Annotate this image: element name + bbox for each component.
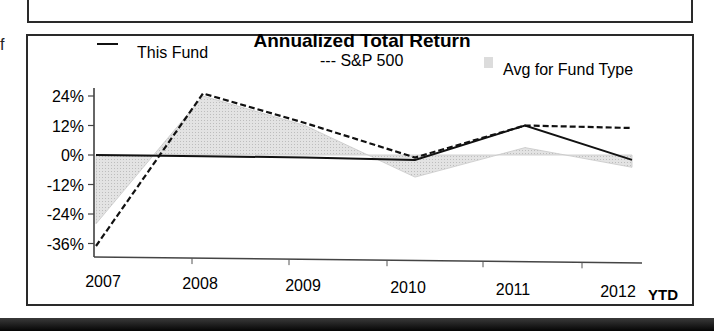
y-tick-label: 0% [61, 147, 84, 164]
y-tick-label: 12% [52, 118, 84, 135]
legend-sp500: --- S&P 500 [320, 52, 403, 69]
sp500-line [96, 94, 632, 247]
scan-edge-band [0, 318, 714, 331]
x-tick-label: 2010 [390, 279, 426, 296]
gray-square-legend-icon [484, 57, 493, 68]
x-tick-label: 2008 [182, 275, 218, 292]
y-axis: 24%12%0%-12%-24%-36% [47, 88, 94, 257]
avg-fund-type-area [96, 96, 632, 224]
plot-area [96, 94, 632, 247]
y-tick-label: -12% [47, 177, 84, 194]
legend-this-fund: This Fund [137, 44, 208, 61]
y-tick-label: 24% [52, 88, 84, 105]
x-tick-label: 2012 [600, 283, 636, 300]
ytd-label: YTD [648, 286, 678, 303]
x-axis: 200720082009201020112012 YTD [85, 257, 678, 303]
x-tick-label: 2007 [85, 273, 121, 290]
x-tick-label: 2009 [285, 277, 321, 294]
annualized-return-chart: Annualized Total Return This Fund --- S&… [0, 0, 714, 331]
x-tick-label: 2011 [496, 281, 531, 298]
chart-title: Annualized Total Return [253, 30, 470, 51]
y-tick-label: -36% [47, 236, 84, 253]
legend-avg-fund-type: Avg for Fund Type [503, 61, 633, 78]
y-tick-label: -24% [47, 206, 84, 223]
